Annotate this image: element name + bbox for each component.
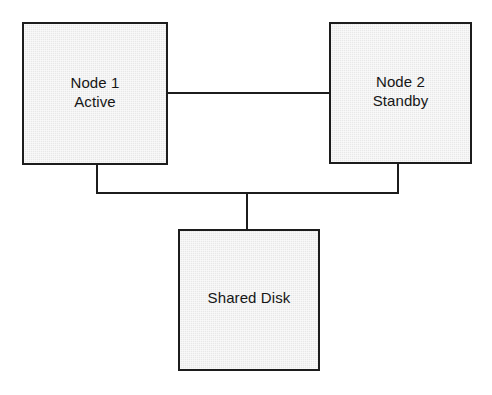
node-box-shared-disk[interactable]: Shared Disk — [178, 229, 320, 371]
connector-node2-bus — [397, 162, 399, 194]
connector-node1-bus — [96, 163, 98, 194]
node-1-title: Node 1 — [71, 73, 120, 92]
node-2-title: Node 2 — [373, 72, 429, 91]
diagram-canvas: Node 1 Active Node 2 Standby Shared Disk — [0, 0, 492, 395]
node-1-text-block: Node 1 Active — [71, 73, 120, 111]
node-2-text-block: Node 2 Standby — [373, 72, 429, 110]
shared-disk-title: Shared Disk — [208, 288, 291, 307]
node-box-node-1[interactable]: Node 1 Active — [22, 22, 168, 165]
node-2-role: Standby — [373, 91, 429, 110]
connector-node1-node2 — [166, 92, 331, 94]
connector-bus-shared-disk — [246, 192, 248, 231]
shared-disk-text-block: Shared Disk — [208, 288, 291, 307]
node-1-role: Active — [71, 92, 120, 111]
node-box-node-2[interactable]: Node 2 Standby — [329, 22, 472, 164]
